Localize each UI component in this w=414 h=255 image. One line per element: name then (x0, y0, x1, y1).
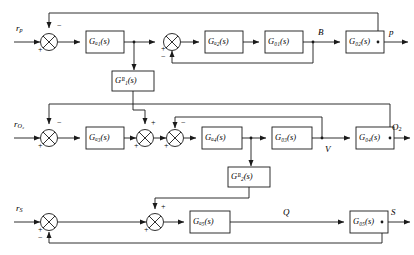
row3-summer1-sign-bottom: − (38, 234, 43, 242)
row2-summer-1 (41, 130, 58, 147)
block-G03-label: G₀₃(s) (275, 133, 296, 142)
row1-summer1-sign-top: − (57, 22, 62, 30)
block-G01-label: G₀₁(s) (268, 37, 289, 46)
GB2-to-row3-wire (155, 187, 249, 209)
row1-input-label: rp (16, 24, 23, 33)
row2-branch-to-GB2 (250, 137, 253, 166)
row2-summer-2 (137, 130, 154, 147)
block-G04-label: G₀₄(s) (359, 133, 380, 142)
block-G02-label: G₀₂(s) (349, 37, 370, 46)
row1-summer-1 (41, 34, 58, 51)
row3-input-label: rS (16, 204, 23, 213)
row2-summer3-sign-top: − (181, 119, 186, 127)
row1-branch-to-GB1 (133, 41, 136, 70)
row3-summer-1 (41, 214, 58, 231)
block-G05-label: G₀₅(s) (353, 217, 374, 226)
row1-summer1-sign-left: + (38, 46, 43, 54)
block-GB2-label: Gᴮ₂(s) (231, 172, 253, 181)
row2-summer1-sign-left: + (38, 142, 43, 150)
block-diagram: rp + − Gₐ₁(s) + − Gₐ₂(s) G₀₁(s) B G₀₂(s)… (0, 0, 414, 255)
row2-summer-3 (167, 130, 184, 147)
row1-summer2-sign-bottom: − (161, 53, 166, 61)
block-GB1-label: Gᴮ₁(s) (115, 76, 137, 85)
row2-summer3-sign-left: + (164, 142, 169, 150)
row3-output-label-S: S (391, 208, 396, 217)
row1-output-label-p: p (389, 28, 394, 37)
GB1-to-row2-wire (133, 91, 145, 124)
block-Ga4-label: Gₐ₄(s) (205, 133, 226, 142)
row3-mid-label-Q: Q (283, 208, 290, 217)
row2-summer2-sign-top: + (151, 119, 156, 127)
block-Ga2-label: Gₐ₂(s) (208, 37, 229, 46)
row2-mid-label-V: V (325, 145, 331, 154)
block-Ga1-label: Gₐ₁(s) (89, 37, 110, 46)
row1-summer-2 (164, 34, 181, 51)
row2-output-label: O2 (392, 123, 402, 132)
block-Ga3-label: Gₐ₃(s) (89, 133, 110, 142)
row3-summer2-sign-top: + (161, 203, 166, 211)
row2-input-label: rO₂ (14, 120, 24, 129)
row3-summer2-sign-left: + (144, 226, 149, 234)
row1-mid-label-B: B (318, 28, 324, 37)
row2-summer1-sign-top: − (57, 119, 62, 127)
row2-summer2-sign-left: + (134, 142, 139, 150)
block-Ga5-label: Gₐ₅(s) (193, 217, 214, 226)
row3-summer-2 (147, 214, 164, 231)
